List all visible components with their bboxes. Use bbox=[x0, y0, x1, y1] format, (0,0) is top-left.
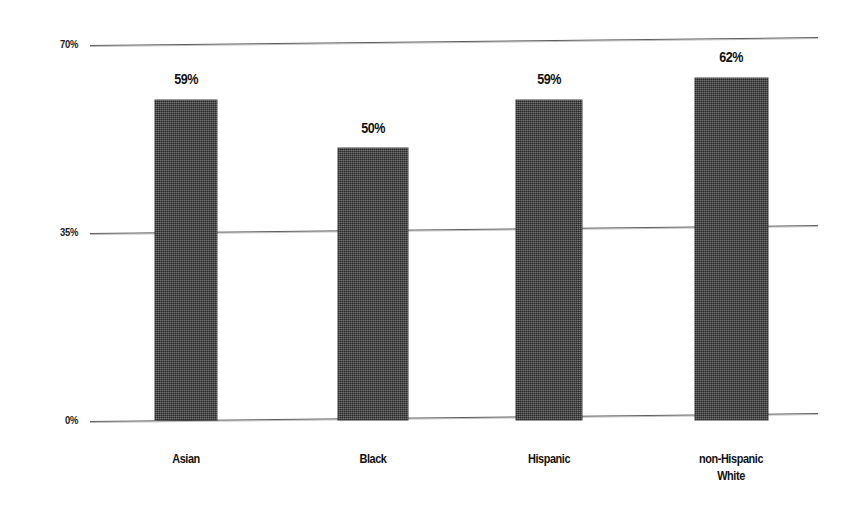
category-label-line2: White bbox=[717, 468, 745, 483]
y-axis-tick-70: 70% bbox=[26, 38, 78, 50]
category-label-hispanic: Hispanic bbox=[499, 450, 600, 467]
bar-asian bbox=[155, 100, 217, 420]
bar-chart: 70% 35% 0% 59% Asian 50% Black 59% Hispa… bbox=[0, 0, 862, 514]
bar-value-hispanic: 59% bbox=[511, 70, 587, 87]
bar-black bbox=[338, 148, 408, 420]
category-label-non-hispanic-white: non-Hispanic White bbox=[681, 450, 782, 484]
bar-value-non-hispanic-white: 62% bbox=[693, 48, 769, 65]
category-label-line1: non-Hispanic bbox=[699, 451, 763, 466]
y-axis-tick-35: 35% bbox=[26, 226, 78, 238]
bar-value-black: 50% bbox=[335, 119, 411, 136]
category-label-black: Black bbox=[323, 450, 424, 467]
bar-non-hispanic-white bbox=[695, 78, 768, 420]
y-axis-tick-0: 0% bbox=[26, 414, 78, 426]
bar-value-asian: 59% bbox=[148, 70, 224, 87]
category-label-asian: Asian bbox=[136, 450, 237, 467]
gridline-70 bbox=[90, 37, 818, 46]
bar-hispanic bbox=[516, 100, 582, 420]
